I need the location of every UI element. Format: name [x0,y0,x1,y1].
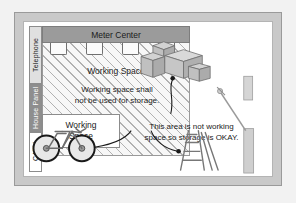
diagram-canvas: Telephone House Panel CATV Meter Center … [0,0,296,203]
note-line-1: This area is not working [124,121,259,132]
garage-interior: Telephone House Panel CATV Meter Center … [23,21,273,177]
working-space-lower-callout: Working Space [42,114,120,148]
label-telephone-text: Telephone [32,38,39,72]
meter-center-label: Meter Center [91,30,141,40]
garage-wall-frame: Telephone House Panel CATV Meter Center … [14,12,282,186]
meter-box [50,43,67,55]
meter-box [158,43,175,55]
label-catv-text: CATV [32,143,39,162]
working-space-rule-text: Working space shall not be used for stor… [46,84,188,106]
storage-ok-note: This area is not working space so storag… [124,121,259,143]
working-space-upper-label: Working Space [42,66,190,76]
lower-callout-line-2: Space [69,131,93,142]
label-catv: CATV [29,132,42,172]
label-telephone: Telephone [29,26,42,84]
label-house-panel-text: House Panel [32,87,39,129]
label-house-panel: House Panel [29,84,42,132]
rule-line-2: not be used for storage. [46,95,188,106]
meter-box [122,43,139,55]
meter-box [86,43,103,55]
lower-callout-line-1: Working [65,120,96,131]
meter-center-bar: Meter Center [42,26,190,43]
rule-line-1: Working space shall [46,84,188,95]
note-line-2: space so storage is OKAY. [124,132,259,143]
